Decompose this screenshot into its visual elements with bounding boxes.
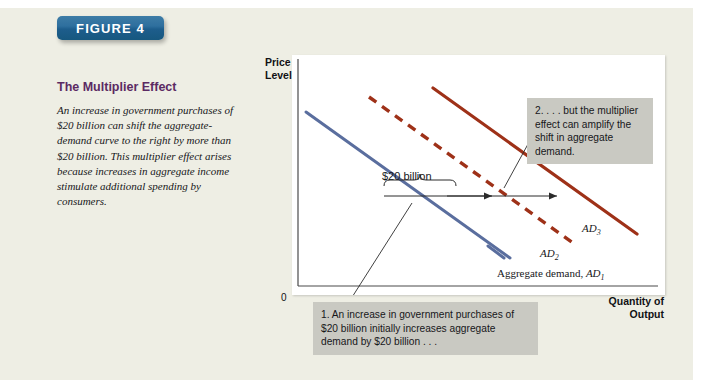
x-axis-title-line2: Output	[600, 308, 664, 321]
chart-svg	[292, 55, 665, 295]
ad1-label-text: AD	[586, 267, 601, 279]
figure-page: FIGURE 4 The Multiplier Effect An increa…	[0, 0, 726, 388]
caption-block: The Multiplier Effect An increase in gov…	[57, 80, 239, 209]
shift-amount-label: $20 billion	[382, 170, 432, 182]
ad1-label-prefix: Aggregate demand,	[497, 267, 586, 279]
x-axis-title: Quantity of Output	[600, 295, 664, 320]
caption-body: An increase in government purchases of $…	[57, 103, 239, 209]
ad3-label-subscript: 3	[597, 228, 601, 237]
shift-arrow-2-head	[549, 193, 557, 200]
ad3-label-text: AD	[582, 222, 597, 234]
ad1-label-subscript: 1	[601, 273, 605, 282]
figure-banner-label: FIGURE 4	[76, 21, 145, 36]
origin-label: 0	[281, 292, 287, 303]
ad2-label-text: AD	[540, 247, 555, 259]
ad3-label: AD3	[582, 222, 601, 237]
callout-initial-increase: 1. An increase in government purchases o…	[313, 302, 538, 355]
ad1-curve	[306, 112, 510, 258]
ad2-label-subscript: 2	[555, 253, 559, 262]
chart-plot-area	[292, 55, 665, 295]
y-axis-title-line1: Price	[265, 56, 295, 69]
callout-1-leader	[349, 203, 412, 295]
callout-multiplier-amplify: 2. . . . but the multiplier effect can a…	[527, 98, 653, 164]
ad1-label: Aggregate demand, AD1	[497, 267, 605, 282]
ad2-label: AD2	[540, 247, 559, 262]
y-axis-title-line2: Level	[265, 69, 295, 82]
caption-title: The Multiplier Effect	[57, 80, 239, 94]
x-axis-title-line1: Quantity of	[600, 295, 664, 308]
y-axis-title: Price Level	[265, 56, 295, 81]
figure-banner: FIGURE 4	[57, 16, 164, 40]
